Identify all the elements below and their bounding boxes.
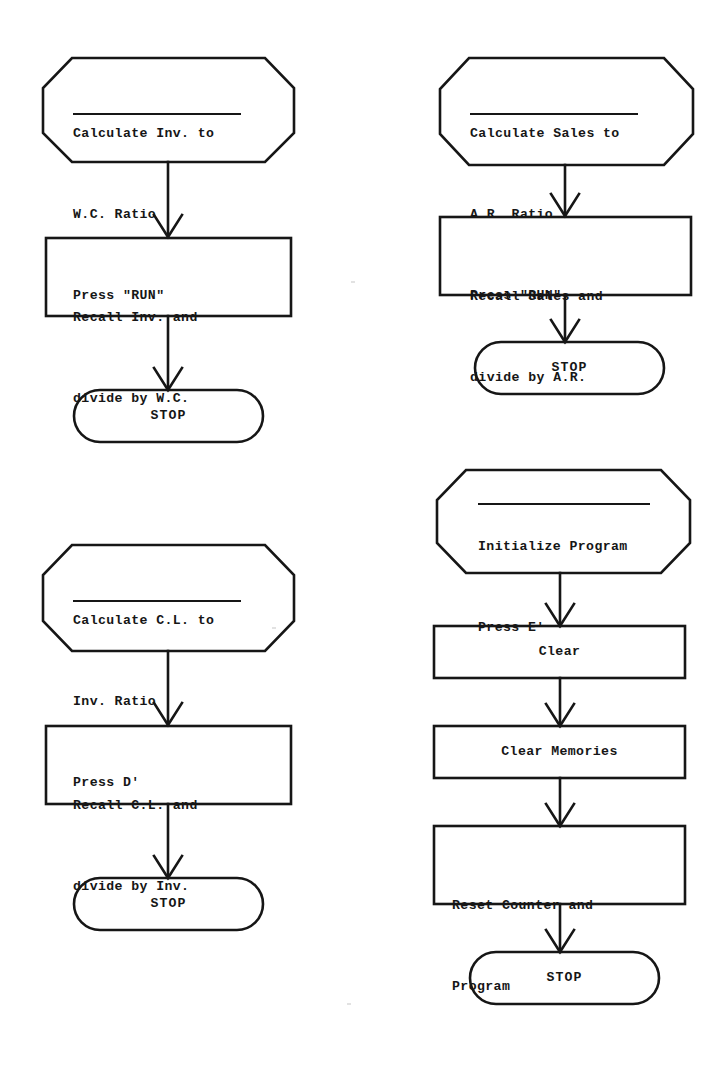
chart2-start-underline [470,113,638,115]
scan-speck [351,281,355,283]
chart4-start-line-1: Initialize Program [478,533,702,560]
chart2-process-text: Recall Sales and divide by A.R. [470,229,690,445]
chart3-stop-label: STOP [74,896,263,911]
chart4-step2-label: Clear Memories [434,744,685,759]
flowchart-sheet: Calculate Inv. to W.C. Ratio Press "RUN"… [0,0,723,1069]
chart4-start-text: Initialize Program Press E' [478,479,702,695]
chart2-start-line-1: Calculate Sales to [470,120,690,147]
chart1-stop-label: STOP [74,408,263,423]
chart1-start-line-1: Calculate Inv. to [73,120,288,147]
chart3-start-line-2: Inv. Ratio [73,688,288,715]
chart3-process-text: Recall C.L. and divide by Inv. [73,738,288,954]
scan-speck [347,1003,351,1005]
chart4-step3-line-1: Reset Counter and [452,892,682,919]
chart1-start-line-2: W.C. Ratio [73,201,288,228]
chart2-stop-label: STOP [475,360,664,375]
chart3-process-line-1: Recall C.L. and [73,792,288,819]
chart4-start-line-2: Press E' [478,614,702,641]
chart3-start-line-1: Calculate C.L. to [73,607,288,634]
chart4-stop-label: STOP [470,970,659,985]
chart3-start-underline [73,600,241,602]
chart4-step3-text: Reset Counter and Program [452,838,682,1054]
chart4-step1-label: Clear [434,644,685,659]
scan-speck [272,627,276,629]
chart1-process-line-1: Recall Inv. and [73,304,288,331]
chart2-start-line-2: A.R. Ratio [470,201,690,228]
chart4-start-underline [478,503,650,505]
chart1-process-text: Recall Inv. and divide by W.C. [73,250,288,466]
chart1-start-underline [73,113,241,115]
chart2-process-line-1: Recall Sales and [470,283,690,310]
